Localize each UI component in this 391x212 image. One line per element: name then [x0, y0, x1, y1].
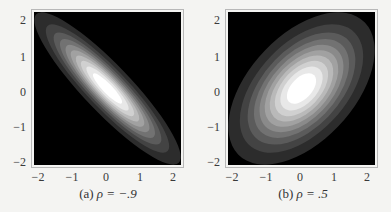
x-tick-label: 0	[290, 171, 310, 183]
x-tick-label: 2	[163, 171, 183, 183]
y-tick-label: −1	[4, 121, 26, 133]
x-tick-label: −1	[62, 171, 82, 183]
y-tick-label: 0	[4, 86, 26, 98]
x-tick-label: 0	[96, 171, 116, 183]
caption-a: (a) ρ = −.9	[48, 187, 168, 201]
x-tick-label: 1	[130, 171, 150, 183]
caption-b: (b) ρ = .5	[243, 187, 363, 201]
contour-plot-b	[228, 12, 375, 165]
y-tick-label: 2	[198, 14, 220, 26]
y-tick-label: −1	[198, 121, 220, 133]
caption-label: (b)	[278, 186, 293, 201]
x-tick-label: −2	[222, 171, 242, 183]
contour-graphic-b	[228, 12, 375, 165]
y-tick-label: 1	[4, 51, 26, 63]
x-tick-label: −1	[256, 171, 276, 183]
y-tick-label: −2	[198, 156, 220, 168]
caption-label: (a)	[79, 186, 93, 201]
panel-a: 2 1 0 −1 −2 −2 −1 0 1 2 (a) ρ = −.9	[0, 0, 195, 212]
caption-expression: ρ = .5	[297, 186, 328, 201]
panel-b: 2 1 0 −1 −2 −2 −1 0 1 2 (b) ρ = .5	[195, 0, 390, 212]
x-tick-label: −2	[28, 171, 48, 183]
x-tick-label: 2	[357, 171, 377, 183]
y-tick-label: 2	[4, 14, 26, 26]
caption-expression: ρ = −.9	[97, 186, 137, 201]
y-tick-label: 1	[198, 51, 220, 63]
x-tick-label: 1	[324, 171, 344, 183]
contour-plot-a	[34, 12, 181, 165]
y-tick-label: 0	[198, 86, 220, 98]
y-tick-label: −2	[4, 156, 26, 168]
contour-graphic-a	[34, 12, 181, 165]
